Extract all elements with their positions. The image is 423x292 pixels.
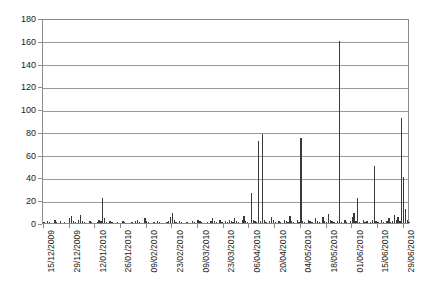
x-tick-mark	[300, 224, 301, 228]
bar	[383, 222, 384, 223]
bar	[194, 222, 195, 223]
bar	[75, 222, 76, 223]
bar	[139, 222, 140, 223]
bar	[258, 141, 259, 223]
x-tick-mark	[274, 224, 275, 228]
bar	[111, 222, 112, 223]
bar	[221, 222, 222, 223]
bars-layer	[43, 20, 408, 223]
bar	[304, 222, 305, 223]
bar	[265, 222, 266, 223]
bar	[148, 222, 149, 223]
plot-area	[42, 19, 409, 224]
x-tick-label: 15/12/2009	[46, 230, 56, 273]
bar	[153, 222, 154, 223]
x-tick-mark	[403, 224, 404, 228]
x-tick-label: 15/06/2010	[380, 230, 390, 273]
bar	[366, 221, 367, 223]
x-tick-label: 04/05/2010	[303, 230, 313, 273]
x-tick-label: 23/03/2010	[226, 230, 236, 273]
bar	[91, 222, 92, 223]
bar	[275, 222, 276, 223]
x-tick-label: 09/02/2010	[149, 230, 159, 273]
bar	[300, 138, 301, 223]
x-tick-label: 12/01/2010	[98, 230, 108, 273]
bar	[377, 222, 378, 223]
bar	[124, 222, 125, 223]
x-tick-mark	[146, 224, 147, 228]
y-tick-label: 80	[26, 128, 36, 137]
x-tick-mark	[120, 224, 121, 228]
y-tick-label: 0	[31, 220, 36, 229]
x-tick-mark	[223, 224, 224, 228]
bar	[159, 222, 160, 223]
y-tick-label: 140	[21, 60, 36, 69]
x-tick-mark	[69, 224, 70, 228]
bar	[207, 222, 208, 223]
y-tick-label: 40	[26, 174, 36, 183]
y-tick-label: 120	[21, 83, 36, 92]
y-tick-label: 20	[26, 197, 36, 206]
bar	[131, 222, 132, 223]
bar	[56, 222, 57, 223]
bar	[64, 222, 65, 223]
bar	[106, 222, 107, 223]
bar	[311, 222, 312, 223]
x-tick-mark	[248, 224, 249, 228]
bar	[216, 222, 217, 223]
x-tick-mark	[377, 224, 378, 228]
x-tick-label: 20/04/2010	[278, 230, 288, 273]
bar	[374, 166, 375, 223]
bar-chart: 020406080100120140160180 15/12/200929/12…	[0, 0, 423, 292]
x-tick-label: 29/12/2009	[72, 230, 82, 273]
bar	[357, 198, 358, 223]
x-tick-label: 09/03/2010	[201, 230, 211, 273]
bar	[117, 222, 118, 223]
bar	[359, 222, 360, 223]
bar	[319, 222, 320, 223]
x-axis: 15/12/200929/12/200912/01/201026/01/2010…	[42, 224, 409, 292]
bar	[280, 222, 281, 223]
bar	[408, 222, 409, 223]
y-tick-label: 160	[21, 37, 36, 46]
bar	[262, 134, 263, 223]
bar	[60, 221, 61, 223]
bar	[175, 222, 176, 223]
x-tick-label: 18/05/2010	[329, 230, 339, 273]
bar	[238, 222, 239, 223]
bar	[84, 222, 85, 223]
x-tick-mark	[197, 224, 198, 228]
x-tick-label: 01/06/2010	[355, 230, 365, 273]
x-tick-label: 23/02/2010	[175, 230, 185, 273]
x-tick-mark	[94, 224, 95, 228]
y-tick-label: 180	[21, 15, 36, 24]
bar	[293, 222, 294, 223]
x-tick-mark	[43, 224, 44, 228]
bar	[333, 222, 334, 223]
bar	[346, 222, 347, 223]
y-axis: 020406080100120140160180	[0, 0, 42, 243]
bar	[339, 41, 340, 223]
x-tick-label: 06/04/2010	[252, 230, 262, 273]
y-tick-label: 100	[21, 106, 36, 115]
x-tick-mark	[171, 224, 172, 228]
bar	[49, 222, 50, 223]
bar	[201, 222, 202, 223]
x-tick-mark	[351, 224, 352, 228]
bar	[341, 222, 342, 223]
bar	[186, 222, 187, 223]
x-tick-mark	[326, 224, 327, 228]
y-tick-label: 60	[26, 151, 36, 160]
bar	[247, 222, 248, 223]
x-tick-label: 29/06/2010	[406, 230, 416, 273]
bar	[251, 193, 252, 223]
x-tick-label: 26/01/2010	[123, 230, 133, 273]
bar	[181, 222, 182, 223]
bar	[43, 222, 44, 223]
